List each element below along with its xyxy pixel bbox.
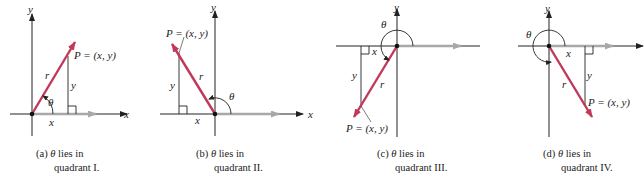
panel-d-quadrant-4: y θ x y r P = (x, y) (d) θ lies in quadr…: [518, 2, 643, 173]
point-label: P = (x, y): [587, 96, 630, 109]
right-angle-mark: [179, 106, 187, 114]
x-length-label: x: [371, 45, 377, 57]
x-length-label: x: [565, 47, 571, 59]
point-label: P = (x, y): [345, 122, 388, 135]
origin-dot: [213, 112, 218, 117]
point-leader: [179, 37, 184, 53]
right-angle-mark: [361, 46, 369, 54]
point-label: P = (x, y): [165, 27, 208, 40]
panel-c-quadrant-3: y θ x y r P = (x, y) (c) θ lies in quadr…: [336, 1, 480, 173]
panel-a-quadrant-1: y x P = (x, y) r y θ x (a) θ lies in qua…: [10, 3, 129, 173]
point-leader: [361, 106, 371, 122]
y-length-label: y: [70, 79, 76, 91]
r-label: r: [562, 78, 567, 90]
caption-line-2: quadrant II.: [214, 162, 263, 173]
x-axis-label: x: [307, 108, 313, 120]
x-axis-label: x: [123, 108, 129, 120]
panel-b-quadrant-2: y x P = (x, y) r y θ x (b) θ lies in qua…: [160, 1, 313, 173]
caption-line-1: (b) θ lies in: [196, 148, 245, 160]
x-length-label: x: [194, 114, 200, 126]
y-axis-label: y: [27, 3, 33, 15]
origin-dot: [30, 112, 35, 117]
caption-line-2: quadrant III.: [395, 162, 447, 173]
point-label: P = (x, y): [73, 49, 116, 62]
y-length-label: y: [169, 79, 175, 91]
theta-label: θ: [229, 90, 235, 102]
caption-line-1: (d) θ lies in: [543, 148, 592, 160]
origin-dot: [395, 44, 400, 49]
caption-line-2: quadrant I.: [54, 162, 99, 173]
r-label: r: [199, 70, 204, 82]
y-length-label: y: [351, 69, 357, 81]
y-axis-label: y: [210, 1, 216, 13]
theta-label: θ: [526, 28, 532, 40]
r-label: r: [45, 69, 50, 81]
theta-label: θ: [48, 96, 54, 108]
caption-line-1: (c) θ lies in: [377, 148, 425, 160]
origin-dot: [547, 44, 552, 49]
y-axis-label: y: [544, 2, 550, 14]
caption-line-2: quadrant IV.: [561, 162, 613, 173]
y-length-label: y: [586, 69, 592, 81]
x-length-label: x: [48, 116, 54, 128]
caption-line-1: (a) θ lies in: [36, 148, 84, 160]
y-axis-label: y: [393, 1, 399, 13]
r-label: r: [380, 78, 385, 90]
angle-quadrant-figure: y x P = (x, y) r y θ x (a) θ lies in qua…: [0, 0, 644, 181]
theta-label: θ: [381, 18, 387, 30]
terminal-side-vector: [172, 44, 215, 114]
terminal-side-vector: [32, 42, 75, 114]
